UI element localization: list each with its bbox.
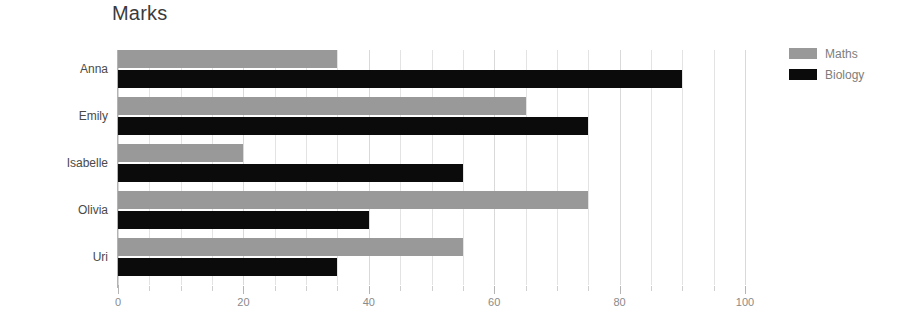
- x-axis-labels: 020406080100: [118, 296, 745, 316]
- bar-biology-olivia: [118, 211, 369, 229]
- y-axis-label-anna: Anna: [0, 62, 108, 76]
- bar-chart: Marks AnnaEmilyIsabelleOliviaUri 0204060…: [0, 0, 899, 328]
- y-axis-label-emily: Emily: [0, 109, 108, 123]
- bar-group: [118, 144, 745, 182]
- x-axis-label-60: 60: [488, 296, 500, 308]
- bar-maths-isabelle: [118, 144, 243, 162]
- bar-biology-uri: [118, 258, 337, 276]
- x-axis-label-40: 40: [363, 296, 375, 308]
- gridline: [745, 50, 746, 285]
- x-axis-label-80: 80: [613, 296, 625, 308]
- bar-maths-olivia: [118, 191, 588, 209]
- x-axis-label-20: 20: [237, 296, 249, 308]
- legend-item-maths[interactable]: Maths: [789, 44, 895, 63]
- x-axis-tick: [275, 286, 276, 291]
- y-axis-label-isabelle: Isabelle: [0, 156, 108, 170]
- bar-maths-emily: [118, 97, 526, 115]
- bar-maths-uri: [118, 238, 463, 256]
- x-axis-tick: [400, 286, 401, 291]
- bar-biology-emily: [118, 117, 588, 135]
- legend-swatch-biology: [789, 69, 817, 80]
- x-axis-tick: [149, 286, 150, 291]
- x-axis-tick: [463, 286, 464, 291]
- legend-item-biology[interactable]: Biology: [789, 65, 895, 84]
- legend-label-biology: Biology: [825, 68, 864, 82]
- bar-group: [118, 50, 745, 88]
- bar-group: [118, 97, 745, 135]
- bar-maths-anna: [118, 50, 337, 68]
- x-axis-tick: [306, 286, 307, 291]
- chart-title: Marks: [112, 2, 167, 25]
- y-axis-labels: AnnaEmilyIsabelleOliviaUri: [0, 50, 108, 285]
- x-axis-tick: [432, 286, 433, 291]
- plot-area: [118, 50, 745, 285]
- y-axis-label-olivia: Olivia: [0, 203, 108, 217]
- x-axis-tick: [682, 286, 683, 291]
- x-axis-label-100: 100: [736, 296, 754, 308]
- x-axis-label-0: 0: [115, 296, 121, 308]
- x-axis-tick: [212, 286, 213, 291]
- x-axis-tick: [557, 286, 558, 291]
- x-axis-tick: [243, 286, 244, 294]
- bar-biology-anna: [118, 70, 682, 88]
- x-axis-tick: [526, 286, 527, 291]
- bar-group: [118, 238, 745, 276]
- x-axis-tick: [588, 286, 589, 291]
- bar-group: [118, 191, 745, 229]
- legend-swatch-maths: [789, 48, 817, 59]
- x-axis-tick: [494, 286, 495, 294]
- legend-label-maths: Maths: [825, 47, 858, 61]
- x-axis-tick: [745, 286, 746, 294]
- x-axis-tick: [181, 286, 182, 291]
- x-axis-tick: [369, 286, 370, 294]
- x-axis-tick: [118, 286, 119, 294]
- legend: MathsBiology: [789, 44, 895, 86]
- x-axis-tick: [651, 286, 652, 291]
- y-axis-label-uri: Uri: [0, 250, 108, 264]
- bar-biology-isabelle: [118, 164, 463, 182]
- x-axis-tick: [714, 286, 715, 291]
- x-axis-tick: [337, 286, 338, 291]
- x-axis-tick: [620, 286, 621, 294]
- x-axis-ticks: [118, 286, 745, 296]
- bar-rows: [118, 50, 745, 285]
